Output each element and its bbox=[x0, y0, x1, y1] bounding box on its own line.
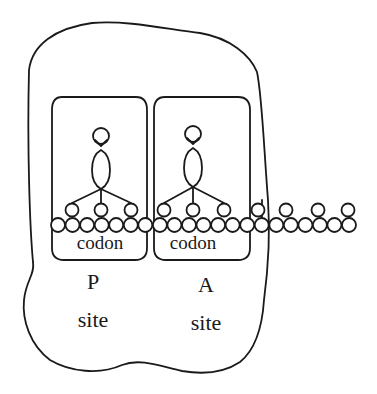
mrna-base bbox=[342, 218, 356, 232]
a-site-letter: A bbox=[198, 272, 214, 297]
mrna-upper-bases bbox=[252, 204, 355, 217]
mrna-base bbox=[124, 218, 138, 232]
mrna-base bbox=[269, 218, 283, 232]
anticodon-base bbox=[218, 204, 231, 217]
trna-body bbox=[184, 148, 202, 187]
mrna-base bbox=[138, 218, 152, 232]
trna-body bbox=[92, 150, 110, 189]
trna-a bbox=[158, 126, 231, 217]
anticodon-base bbox=[125, 204, 138, 217]
mrna-base bbox=[182, 218, 196, 232]
anticodon-base bbox=[158, 204, 171, 217]
p-codon-label: codon bbox=[77, 232, 124, 253]
trna-p bbox=[66, 128, 138, 217]
trna-loop bbox=[187, 138, 199, 144]
mrna-base bbox=[153, 218, 167, 232]
mrna-base bbox=[298, 218, 312, 232]
mrna-strand bbox=[51, 218, 356, 232]
mrna-base bbox=[66, 218, 80, 232]
a-site-word: site bbox=[191, 310, 222, 335]
mrna-base bbox=[51, 218, 65, 232]
mrna-base bbox=[95, 218, 109, 232]
p-site-word: site bbox=[78, 307, 109, 332]
p-site-letter: P bbox=[87, 269, 99, 294]
mrna-base bbox=[255, 218, 269, 232]
mrna-base bbox=[327, 218, 341, 232]
mrna-base bbox=[167, 218, 181, 232]
ribosome-diagram: codon P site codon A site bbox=[0, 0, 377, 394]
anticodon-base bbox=[66, 204, 79, 217]
anticodon-base bbox=[187, 204, 200, 217]
p-site: codon P site bbox=[52, 97, 147, 332]
trna-loop bbox=[95, 140, 107, 146]
mrna-base bbox=[211, 218, 225, 232]
mrna-base bbox=[226, 218, 240, 232]
a-codon-label: codon bbox=[170, 232, 217, 253]
a-site: codon A site bbox=[154, 97, 250, 335]
mrna-base bbox=[313, 218, 327, 232]
anticodon-base bbox=[95, 204, 108, 217]
mrna-base bbox=[284, 218, 298, 232]
mrna-base bbox=[80, 218, 94, 232]
mrna-base bbox=[240, 218, 254, 232]
mrna-base bbox=[109, 218, 123, 232]
mrna-base bbox=[197, 218, 211, 232]
